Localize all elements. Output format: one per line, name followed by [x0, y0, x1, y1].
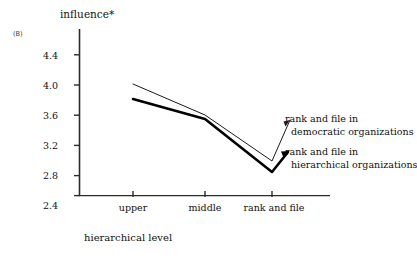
series-line-hierarchical — [133, 99, 288, 172]
